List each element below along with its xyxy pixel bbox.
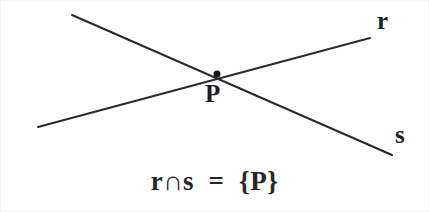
geometry-figure: r s P r∩s = {P} <box>0 0 429 212</box>
intersection-point-marker <box>214 71 221 78</box>
line-r-label: r <box>377 8 388 33</box>
point-p-label: P <box>205 81 220 106</box>
line-s <box>72 15 392 155</box>
line-r <box>38 38 370 127</box>
line-s-label: s <box>395 122 405 147</box>
intersection-formula: r∩s = {P} <box>0 168 429 195</box>
